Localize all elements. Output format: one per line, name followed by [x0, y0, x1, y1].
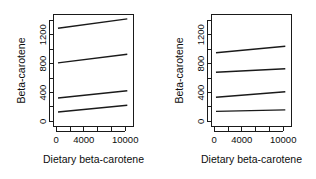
x-tick-labels: 0400010000	[212, 134, 297, 145]
y-tick-labels: 04008001200	[37, 24, 48, 124]
x-axis-title: Dietary beta-carotene	[201, 153, 302, 165]
data-lines	[216, 46, 285, 111]
x-tick-label: 4000	[231, 134, 252, 145]
x-axis-ticks	[214, 127, 283, 132]
data-line-line-2	[216, 69, 285, 73]
x-tick-label: 0	[212, 134, 217, 145]
y-tick-label: 0	[195, 119, 206, 124]
x-tick-label: 10000	[112, 134, 138, 145]
panel-right: 04008001200Beta-carotene0400010000Dietar…	[158, 0, 316, 179]
y-tick-label: 1200	[195, 24, 206, 45]
y-tick-label: 0	[37, 119, 48, 124]
x-axis-ticks	[56, 127, 125, 132]
y-tick-label: 800	[37, 56, 48, 72]
plot-box	[54, 15, 134, 127]
data-line-line-4	[58, 105, 127, 112]
y-tick-label: 400	[37, 85, 48, 101]
figure-two-panel-line-plot: 04008001200Beta-carotene0400010000Dietar…	[0, 0, 316, 179]
data-lines	[58, 19, 127, 112]
data-line-line-3	[58, 91, 127, 98]
data-line-line-3	[216, 92, 285, 97]
y-axis-title: Beta-carotene	[15, 37, 27, 103]
data-line-line-1	[216, 46, 285, 53]
data-line-line-2	[58, 54, 127, 63]
y-tick-label: 1200	[37, 24, 48, 45]
x-tick-label: 10000	[270, 134, 296, 145]
y-tick-label: 400	[195, 85, 206, 101]
x-tick-labels: 0400010000	[54, 134, 139, 145]
y-axis-ticks	[49, 20, 54, 121]
data-line-line-1	[58, 19, 127, 28]
y-axis-title: Beta-carotene	[173, 37, 185, 103]
y-axis-ticks	[207, 20, 212, 121]
data-line-line-4	[216, 110, 285, 111]
x-axis-title: Dietary beta-carotene	[43, 153, 144, 165]
x-tick-label: 4000	[73, 134, 94, 145]
y-tick-label: 800	[195, 56, 206, 72]
x-tick-label: 0	[54, 134, 59, 145]
panel-left-canvas: 04008001200Beta-carotene0400010000Dietar…	[0, 0, 158, 179]
panel-left: 04008001200Beta-carotene0400010000Dietar…	[0, 0, 158, 179]
panel-right-canvas: 04008001200Beta-carotene0400010000Dietar…	[158, 0, 316, 179]
y-tick-labels: 04008001200	[195, 24, 206, 124]
